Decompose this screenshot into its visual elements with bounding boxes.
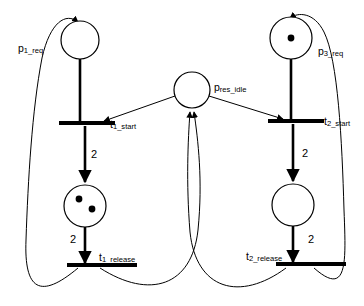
token-p2-use-1 xyxy=(76,196,83,203)
arc-weight-p4use-t2release: 2 xyxy=(308,233,314,245)
place-p-res-idle[interactable] xyxy=(174,72,210,108)
label-t2-start: t2_start xyxy=(324,115,351,129)
label-t1-release: t1_release xyxy=(99,251,135,265)
place-p2-use[interactable] xyxy=(64,185,106,227)
place-p4-use[interactable] xyxy=(272,184,314,226)
label-p-res-idle: pres_idle xyxy=(214,81,246,95)
place-p1-req[interactable] xyxy=(61,21,99,59)
arc-t1release-to-p1req xyxy=(26,18,78,286)
arc-presidle-to-t2start xyxy=(209,96,283,119)
petri-net-svg: p1_req pres_idle p3_req t1_start t2_star… xyxy=(0,0,364,306)
token-p3-req-1 xyxy=(288,35,295,42)
arc-weight-t2start-p4use: 2 xyxy=(302,147,308,159)
arc-weight-t1start-p2use: 2 xyxy=(91,148,97,160)
token-p2-use-2 xyxy=(89,206,96,213)
label-p1-req: p1_req xyxy=(18,42,43,56)
arc-presidle-to-t1start xyxy=(104,96,175,121)
arc-weight-p2use-t1release: 2 xyxy=(70,233,76,245)
diagram-canvas: p1_req pres_idle p3_req t1_start t2_star… xyxy=(0,0,364,306)
label-t2-release: t2_release xyxy=(246,250,282,264)
label-t1-start: t1_start xyxy=(110,118,137,132)
label-p3-req: p3_req xyxy=(318,45,343,59)
